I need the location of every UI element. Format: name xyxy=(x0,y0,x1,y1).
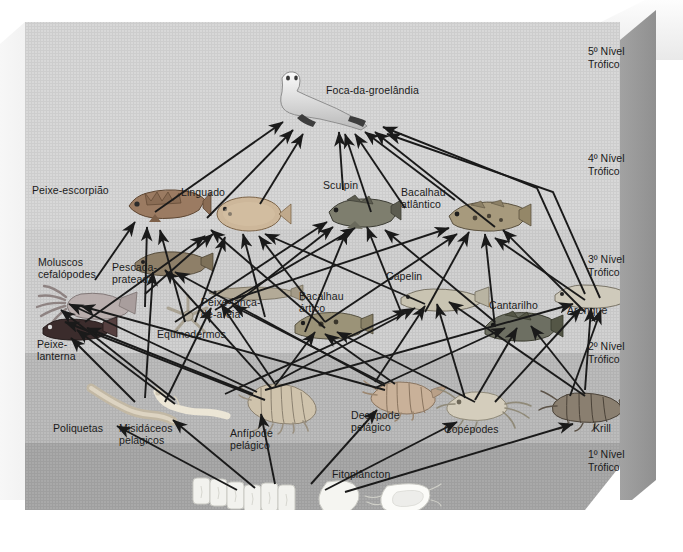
label-decapode: Decápode pelágico xyxy=(351,409,400,433)
label-bacalhau-artico: Bacalhau ártico xyxy=(299,290,344,314)
label-krill: Krill xyxy=(593,422,611,434)
label-fitoplancton: Fitoplâncton xyxy=(332,468,390,480)
label-arenque: Arenque xyxy=(567,304,607,316)
label-peixe-escorpiao: Peixe-escorpião xyxy=(32,184,109,196)
diagram-scene: Foca-da-groelândia Peixe-escorpião Lingu… xyxy=(25,22,620,510)
label-peixe-lanca: Peixe-lança- de-areia xyxy=(201,296,261,320)
trophic-level-1: 1º Nível Trófico xyxy=(588,448,625,474)
trophic-level-4: 4º Nível Trófico xyxy=(588,152,625,178)
label-cantarilho: Cantarilho xyxy=(489,299,538,311)
label-misidaceos: Misidáceos pelágicos xyxy=(119,422,173,446)
label-foca: Foca-da-groelândia xyxy=(326,84,419,96)
label-poliquetas: Poliquetas xyxy=(53,422,103,434)
label-capelin: Capelin xyxy=(386,270,422,282)
trophic-level-5: 5º Nível Trófico xyxy=(588,45,625,71)
label-copepodes: Copépodes xyxy=(444,423,499,435)
box-right-face xyxy=(620,10,683,540)
food-web-figure: Foca-da-groelândia Peixe-escorpião Lingu… xyxy=(0,0,683,552)
label-pescada: Pescada- prateada xyxy=(112,261,157,285)
label-peixe-lanterna: Peixe- lanterna xyxy=(37,338,76,362)
label-anfipode: Anfípode pelágico xyxy=(230,427,273,451)
trophic-level-2: 2º Nível Trófico xyxy=(588,340,625,366)
label-bacalhau-atlantico: Bacalhau atlântico xyxy=(401,186,446,210)
label-linguado: Linguado xyxy=(181,186,225,198)
label-equinodermos: Equinodermos xyxy=(157,328,226,340)
label-sculpin: Sculpin xyxy=(323,179,358,191)
label-moluscos: Moluscos cefalópodes xyxy=(38,256,96,280)
trophic-level-3: 3º Nível Trófico xyxy=(588,253,625,279)
